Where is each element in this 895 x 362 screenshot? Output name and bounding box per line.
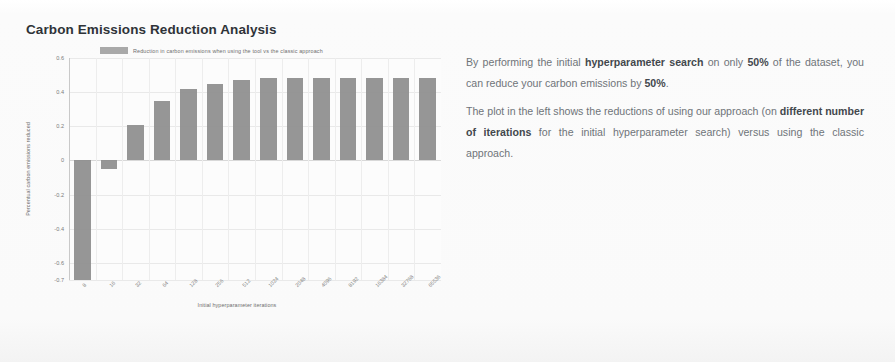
y-tick-label: -0.2 [54, 192, 64, 198]
p2-text-1: The plot in the left shows the reduction… [466, 105, 780, 117]
y-tick-label: 0 [61, 157, 64, 163]
y-tick-label: 0.2 [56, 123, 64, 129]
bar [74, 160, 90, 280]
y-tick-label: 0.6 [56, 55, 64, 61]
legend-label: Reduction in carbon emissions when using… [133, 48, 323, 54]
bar-chart: Reduction in carbon emissions when using… [22, 44, 452, 334]
y-tick-label: 0.4 [56, 89, 64, 95]
p1-bold-3: 50% [644, 77, 665, 89]
y-tick-label: -0.6 [54, 260, 64, 266]
bar [393, 78, 409, 160]
y-tick-label: -0.4 [54, 226, 64, 232]
bar [154, 101, 170, 161]
x-tick-label: 8 [81, 282, 87, 288]
p1-bold-2: 50% [747, 56, 768, 68]
x-tick-label: 64 [161, 280, 169, 288]
plot-area: 0.60.40.20-0.2-0.4-0.6-0.7 8163264128256… [69, 58, 441, 280]
p1-text-4: . [666, 77, 669, 89]
bar [180, 89, 196, 161]
bar [366, 78, 382, 160]
bar [260, 78, 276, 160]
description-paragraph-1: By performing the initial hyperparameter… [466, 52, 864, 94]
p1-text-1: By performing the initial [466, 56, 585, 68]
x-tick-label: 16 [108, 280, 116, 288]
bar [127, 125, 143, 161]
y-axis-label: Percentual carbon emissions reduced [25, 122, 31, 216]
y-tick-label: -0.7 [54, 277, 64, 283]
legend-swatch-icon [100, 47, 128, 54]
bar [233, 80, 249, 160]
bar [340, 78, 356, 160]
bar [313, 78, 329, 160]
description-panel: By performing the initial hyperparameter… [466, 52, 864, 164]
p1-text-2: on only [703, 56, 747, 68]
bar [207, 84, 223, 161]
description-paragraph-2: The plot in the left shows the reduction… [466, 101, 864, 164]
figure-panel: Carbon Emissions Reduction Analysis Redu… [0, 0, 895, 362]
bar [287, 78, 303, 160]
x-axis-label: Initial hyperparameter iterations [198, 302, 277, 308]
p1-bold-1: hyperparameter search [585, 56, 704, 68]
chart-legend: Reduction in carbon emissions when using… [100, 47, 323, 54]
x-tick-label: 32 [134, 280, 142, 288]
bar [419, 78, 435, 160]
bar-series [69, 58, 441, 280]
bar [101, 160, 117, 169]
page-title: Carbon Emissions Reduction Analysis [26, 22, 277, 37]
